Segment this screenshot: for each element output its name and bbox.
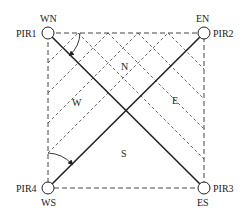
sensor-circle-pir1 xyxy=(42,27,54,39)
sensor-diagram: PIR1 WN PIR2 EN PIR3 ES PIR4 WS N W E S xyxy=(0,0,251,218)
corner-label-ws: WS xyxy=(41,197,56,208)
angle-arc-arrow-pir4 xyxy=(48,153,72,164)
sensor-circle-pir3 xyxy=(198,182,210,194)
angle-arc-arrow-pir1 xyxy=(70,33,80,55)
region-label-e: E xyxy=(172,95,178,106)
corner-label-es: ES xyxy=(197,197,209,208)
sensor-label-pir4: PIR4 xyxy=(16,183,37,194)
region-label-w: W xyxy=(72,97,82,108)
region-label-s: S xyxy=(121,148,127,159)
corner-label-en: EN xyxy=(196,13,209,24)
sensor-circle-pir4 xyxy=(42,182,54,194)
sensor-label-pir2: PIR2 xyxy=(213,28,234,39)
sensor-label-pir1: PIR1 xyxy=(16,28,37,39)
region-label-n: N xyxy=(121,61,128,72)
corner-label-wn: WN xyxy=(40,13,57,24)
hatching xyxy=(48,33,204,159)
diagram-canvas: PIR1 WN PIR2 EN PIR3 ES PIR4 WS N W E S xyxy=(0,0,251,218)
sensor-label-pir3: PIR3 xyxy=(213,183,234,194)
sensor-circle-pir2 xyxy=(198,27,210,39)
